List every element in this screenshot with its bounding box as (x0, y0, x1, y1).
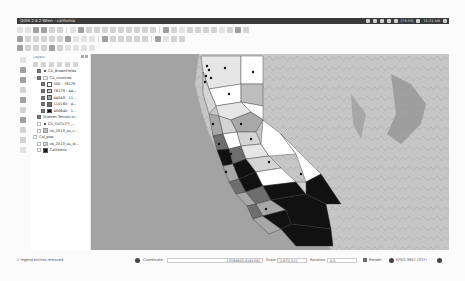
add-mssql-icon[interactable] (49, 45, 55, 51)
change-label-icon[interactable] (142, 36, 148, 42)
touch-zoom-icon[interactable] (70, 27, 76, 33)
print-composer-icon[interactable] (49, 27, 55, 33)
remove-layer-icon[interactable] (73, 62, 78, 67)
coordinate-field[interactable]: -13398603,4161502 (167, 258, 263, 263)
move-feature-icon[interactable] (49, 36, 55, 42)
label-tool-icon[interactable] (102, 36, 108, 42)
zoom-full-icon[interactable] (110, 27, 116, 33)
zoom-last-icon[interactable] (134, 27, 140, 33)
add-wcs-icon[interactable] (73, 45, 79, 51)
copy-icon[interactable] (81, 36, 87, 42)
class-visibility-checkbox[interactable] (41, 82, 45, 86)
zoom-out-icon[interactable] (102, 27, 108, 33)
add-feature-icon[interactable] (41, 36, 47, 42)
layer-visibility-checkbox[interactable] (37, 122, 41, 126)
layer-visibility-checkbox[interactable] (37, 129, 41, 133)
map-tips-icon[interactable] (211, 27, 217, 33)
render-checkbox[interactable] (363, 258, 367, 262)
plugin-a-icon[interactable] (163, 36, 169, 42)
layer-item[interactable]: California (31, 147, 90, 154)
more-tools-dropdown-icon[interactable] (20, 147, 26, 153)
delete-selected-icon[interactable] (65, 36, 71, 42)
battery-icon[interactable] (394, 19, 398, 23)
layer-visibility-checkbox[interactable] (37, 148, 41, 152)
deselect-icon[interactable] (179, 27, 185, 33)
class-visibility-checkbox[interactable] (41, 89, 45, 93)
add-postgis-icon[interactable] (33, 45, 39, 51)
dropbox-icon[interactable] (366, 19, 370, 23)
zoom-to-selection-icon[interactable] (118, 27, 124, 33)
annotation-icon[interactable] (219, 27, 225, 33)
plugin-b-icon[interactable] (171, 36, 177, 42)
pan-icon[interactable] (78, 27, 84, 33)
manage-visibility-icon[interactable] (41, 62, 46, 67)
zoom-next-icon[interactable] (142, 27, 148, 33)
globe-icon[interactable] (20, 117, 26, 123)
node-tool-icon[interactable] (57, 36, 63, 42)
save-edits-icon[interactable] (33, 36, 39, 42)
messages-icon[interactable] (437, 258, 442, 263)
class-visibility-checkbox[interactable] (41, 109, 45, 113)
float-panel-icon[interactable] (81, 55, 84, 58)
simplify-feature-icon[interactable] (20, 137, 26, 143)
coordinate-toggle-icon[interactable] (135, 258, 140, 263)
power-gear-icon[interactable] (443, 19, 447, 23)
layer-visibility-checkbox[interactable] (37, 115, 41, 119)
bluetooth-icon[interactable] (380, 19, 384, 23)
add-vector-icon[interactable] (17, 45, 23, 51)
layer-visibility-checkbox[interactable] (37, 142, 41, 146)
attribute-table-icon[interactable] (187, 27, 193, 33)
help-icon[interactable] (243, 27, 249, 33)
rotate-label-icon[interactable] (134, 36, 140, 42)
layer-styling-icon[interactable] (155, 36, 161, 42)
layer-item[interactable]: cb_2013_us_c... (31, 127, 90, 134)
add-group-icon[interactable] (33, 62, 38, 67)
current-edits-icon[interactable] (17, 36, 23, 42)
measure-icon[interactable] (203, 27, 209, 33)
show-labels-icon[interactable] (118, 36, 124, 42)
layer-item[interactable]: CA_FACILITY_... (31, 121, 90, 128)
pin-labels-icon[interactable] (110, 36, 116, 42)
class-visibility-checkbox[interactable] (41, 96, 45, 100)
pan-to-selection-icon[interactable] (86, 27, 92, 33)
clock[interactable]: 11:21 AM (423, 18, 440, 24)
zoom-in-icon[interactable] (94, 27, 100, 33)
zoom-to-layer-icon[interactable] (126, 27, 132, 33)
network-icon[interactable] (373, 19, 377, 23)
toggle-editing-icon[interactable] (25, 36, 31, 42)
layer-item[interactable]: Stamen Terrain-Ix... (31, 114, 90, 121)
class-visibility-checkbox[interactable] (41, 102, 45, 106)
identify-icon[interactable] (163, 27, 169, 33)
add-spatialite-icon[interactable] (41, 45, 47, 51)
select-icon[interactable] (171, 27, 177, 33)
cut-icon[interactable] (73, 36, 79, 42)
open-project-icon[interactable] (25, 27, 31, 33)
compose-manager-icon[interactable] (57, 27, 63, 33)
capture-point-icon[interactable] (20, 57, 26, 63)
crs-globe-icon[interactable] (389, 258, 394, 263)
legend-class[interactable]: 110180 - 4... (31, 101, 90, 108)
new-project-icon[interactable] (17, 27, 23, 33)
filter-legend-icon[interactable] (49, 62, 54, 67)
text-annotation-icon[interactable] (227, 27, 233, 33)
pencil-icon[interactable] (20, 87, 26, 93)
close-panel-icon[interactable] (85, 55, 88, 58)
node-tool-vertical-icon[interactable] (20, 107, 26, 113)
layer-item[interactable]: CA_BrownFields (31, 68, 90, 75)
layer-item[interactable]: ▾ CA_counties (31, 75, 90, 82)
layer-item[interactable]: cb_2013_us_st... (31, 141, 90, 148)
map-canvas[interactable] (91, 54, 449, 250)
layer-group[interactable]: Cal_pop (31, 134, 90, 141)
layer-visibility-checkbox[interactable] (37, 69, 41, 73)
capture-line-icon[interactable] (20, 67, 26, 73)
legend-class[interactable]: 44048 - 11... (31, 94, 90, 101)
scale-combobox[interactable]: 1:673,322 (277, 258, 307, 263)
capture-polygon-icon[interactable] (20, 77, 26, 83)
legend-class[interactable]: 76129 - 44... (31, 88, 90, 95)
legend-class[interactable]: 500 - 76129 (31, 81, 90, 88)
save-project-icon[interactable] (33, 27, 39, 33)
legend-class[interactable]: 400640 - 1... (31, 108, 90, 115)
bookmarks-icon[interactable] (235, 27, 241, 33)
save-as-icon[interactable] (41, 27, 47, 33)
crs-status[interactable]: EPSG:3857 (OTF) (396, 256, 427, 264)
